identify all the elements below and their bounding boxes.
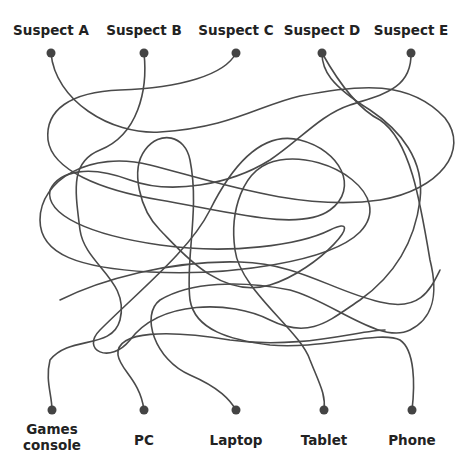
suspect-e-dot xyxy=(407,49,416,58)
suspect-d-dot xyxy=(318,49,327,58)
games-console-dot xyxy=(48,406,57,415)
wire-a xyxy=(40,53,454,410)
tablet-dot xyxy=(320,406,329,415)
suspect-c-dot xyxy=(232,49,241,58)
pc-dot xyxy=(140,406,149,415)
wire-d xyxy=(151,53,434,410)
wire-e xyxy=(50,53,414,410)
suspect-b-dot xyxy=(140,49,149,58)
wire-c xyxy=(48,53,421,353)
suspect-a-dot xyxy=(47,49,56,58)
phone-dot xyxy=(408,406,417,415)
wire-tangle-1 xyxy=(118,330,385,410)
laptop-dot xyxy=(232,406,241,415)
tangled-lines-diagram xyxy=(0,0,471,469)
